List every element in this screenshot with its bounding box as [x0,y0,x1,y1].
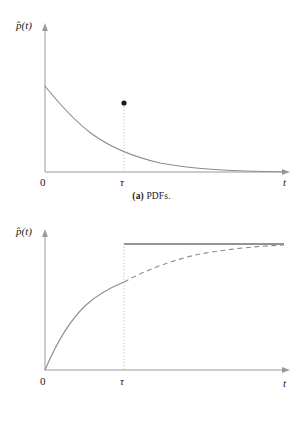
x-axis-label: t [283,176,287,188]
y-axis-arrowhead [42,23,48,31]
delta-point-marker [121,100,126,105]
x-axis-label: t [283,377,287,389]
caption-a-text: PDFs. [146,191,170,201]
y-axis-label: p̂(t) [15,19,32,32]
y-axis-arrowhead [42,229,48,237]
x-axis-arrowhead [282,367,290,373]
x-tick-tau: τ [120,176,125,188]
panel-pdfs: p̂(t) t 0 τ (a) PDFs. [0,0,303,212]
pdf-plot: p̂(t) t 0 τ [0,0,303,190]
cdf-curve-before-tau [45,282,124,370]
figure-pdfs-cdfs: p̂(t) t 0 τ (a) PDFs. [0,0,303,424]
x-tick-tau: τ [120,375,125,387]
cdf-plot: p̂(t) t 0 τ [0,210,303,400]
caption-a-label: (a) [132,191,144,201]
caption-pdfs: (a) PDFs. [0,191,303,201]
pdf-curve [45,86,284,172]
x-tick-origin: 0 [40,375,46,387]
y-axis-label: p̂(t) [15,225,32,238]
cdf-dashed-continuation [124,245,284,282]
panel-cdfs: p̂(t) t 0 τ (b) CDFs. [0,210,303,424]
x-tick-origin: 0 [40,176,46,188]
